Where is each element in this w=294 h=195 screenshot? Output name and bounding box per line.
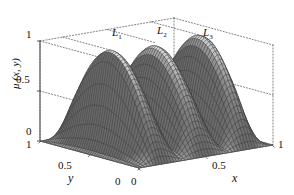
ridge-label-l1: L1 (112, 27, 122, 41)
surface-plot-figure: μ (x, y) 1 0.5 0 1 0.5 0 y 0 0.5 1 x L1 … (0, 0, 294, 195)
y-axis-title: y (68, 172, 73, 184)
x-tick-0: 0 (131, 176, 137, 187)
ridge-label-l1-sub: 1 (118, 33, 122, 41)
x-axis-title: x (232, 172, 237, 184)
ridge-label-l3: L3 (203, 27, 213, 41)
surface-mesh (40, 35, 273, 168)
y-tick-0: 0 (115, 176, 121, 187)
ridge-label-l2-sub: 2 (163, 31, 167, 39)
x-tick-1: 1 (278, 139, 284, 150)
x-tick-0p5: 0.5 (212, 160, 226, 171)
plot-canvas (0, 0, 294, 195)
ridge-label-l2: L2 (157, 25, 167, 39)
z-tick-0p5: 0.5 (16, 74, 30, 85)
y-tick-1: 1 (26, 139, 32, 150)
y-tick-0p5: 0.5 (58, 160, 72, 171)
z-tick-0: 0 (26, 126, 32, 137)
ridge-label-l3-sub: 3 (209, 33, 213, 41)
z-tick-1: 1 (26, 29, 32, 40)
